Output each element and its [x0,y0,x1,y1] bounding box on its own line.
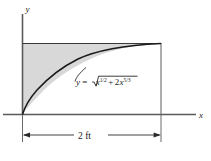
y-axis-label: y [25,4,30,14]
dimension-label: 2 ft [78,131,91,141]
dimension-arrow-right-icon [154,133,161,138]
equation-term1-exponent: 1/2 [100,77,107,83]
x-axis-label: x [198,110,203,120]
equation-term2-exponent: 5/3 [124,77,131,83]
equation-lhs: y [75,77,80,87]
curve-equation-label: y=x1/2+2x5/3 [75,76,138,87]
dimension-arrow-left-icon [23,133,30,138]
figure-container: y x 2 ft y=x1/2+2x5/3 [0,0,211,161]
equation-plus: + [108,77,113,87]
equation-equals: = [82,77,87,87]
area-diagram-svg: y x 2 ft y=x1/2+2x5/3 [0,0,211,161]
svg-text:y=x1/2+2x5/3: y=x1/2+2x5/3 [75,77,131,87]
